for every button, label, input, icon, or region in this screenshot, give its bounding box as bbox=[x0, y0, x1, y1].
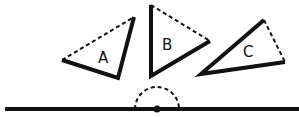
triangle-b-label: B bbox=[162, 36, 172, 54]
triangle-c-label: C bbox=[243, 43, 253, 61]
diagram-canvas: A B C bbox=[0, 0, 299, 117]
triangle-b: B bbox=[151, 5, 210, 76]
triangle-b-dashed-edge bbox=[151, 5, 210, 41]
triangle-b-solid-edges bbox=[151, 5, 210, 76]
triangle-a: A bbox=[62, 17, 134, 78]
center-point bbox=[154, 106, 161, 113]
triangle-a-solid-edges bbox=[62, 17, 134, 78]
triangle-c-dashed-edge bbox=[264, 20, 285, 62]
triangle-c: C bbox=[201, 20, 285, 74]
triangle-a-label: A bbox=[98, 49, 109, 67]
